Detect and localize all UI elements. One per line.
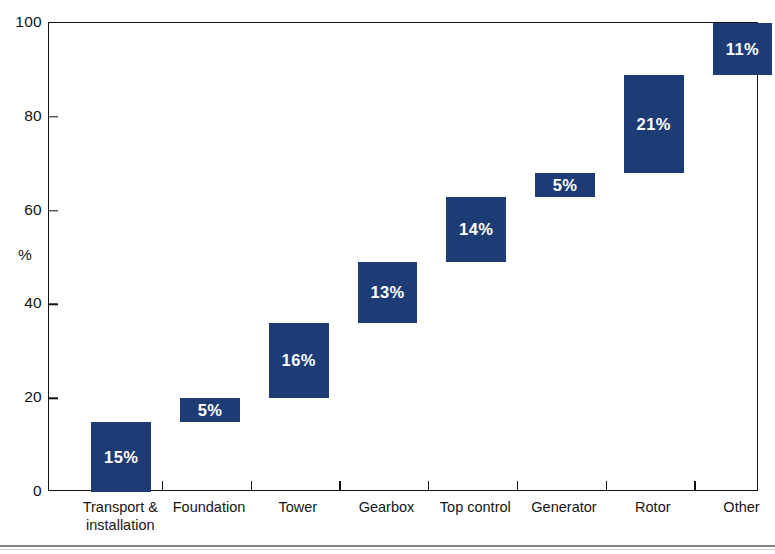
bar-value-label: 16% [282, 352, 316, 369]
bar-value-label: 11% [726, 41, 759, 58]
y-tick-label-40: 40 [2, 294, 42, 312]
bar-value-label: 15% [104, 449, 138, 466]
x-cat-label-other: Other [682, 498, 775, 516]
waterfall-chart: 100 80 60 40 20 0 % 15% 5% 16% 1 [0, 0, 775, 554]
x-tick-mark-1 [162, 481, 163, 490]
y-tick-mark-40 [49, 304, 58, 305]
y-tick-label-60: 60 [2, 201, 42, 219]
bar-transport-installation[interactable]: 15% [91, 422, 151, 492]
x-tick-mark-2 [251, 481, 252, 490]
bar-gearbox[interactable]: 13% [358, 262, 418, 323]
x-axis: Transport & installation Foundation Towe… [48, 498, 758, 548]
x-tick-mark-4 [428, 481, 429, 490]
bar-tower[interactable]: 16% [269, 323, 329, 398]
y-tick-mark-20 [49, 397, 58, 398]
y-axis: 100 80 60 40 20 0 [0, 0, 42, 554]
page-divider [0, 545, 775, 547]
y-axis-title: % [18, 246, 32, 264]
bar-value-label: 5% [553, 177, 578, 194]
y-tick-mark-80 [49, 116, 58, 117]
plot-area: 15% 5% 16% 13% 14% 5% 21% 11% [48, 22, 758, 491]
bar-value-label: 14% [459, 221, 493, 238]
x-tick-mark-6 [606, 481, 607, 490]
bar-generator[interactable]: 5% [535, 173, 595, 197]
x-tick-mark-3 [339, 481, 340, 490]
bar-top-control[interactable]: 14% [446, 197, 506, 263]
y-tick-label-0: 0 [2, 482, 42, 500]
bar-foundation[interactable]: 5% [180, 398, 240, 422]
page-divider-secondary [0, 549, 775, 550]
x-tick-mark-5 [517, 481, 518, 490]
bar-value-label: 5% [198, 402, 223, 419]
bar-other[interactable]: 11% [713, 23, 773, 75]
y-tick-label-20: 20 [2, 388, 42, 406]
bar-value-label: 13% [370, 284, 404, 301]
y-tick-mark-60 [49, 210, 58, 211]
y-tick-label-100: 100 [2, 13, 42, 31]
x-tick-mark-7 [694, 481, 695, 490]
x-cat-label-line2: installation [60, 516, 180, 534]
y-tick-label-80: 80 [2, 107, 42, 125]
bar-rotor[interactable]: 21% [624, 75, 684, 174]
bar-value-label: 21% [637, 116, 671, 133]
